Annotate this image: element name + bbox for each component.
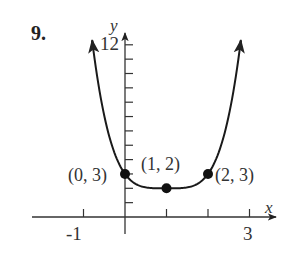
x-ticks: [84, 209, 250, 217]
point-marker: [162, 183, 172, 193]
y-tick-label-12: 12: [100, 33, 119, 54]
point-label-1-2: (1, 2): [141, 154, 180, 175]
point-label-0-3: (0, 3): [68, 165, 107, 186]
point-label-2-3: (2, 3): [215, 165, 254, 186]
curve-arrow-right: [240, 40, 241, 45]
problem-number: 9.: [31, 22, 46, 44]
x-tick-label-neg1: -1: [66, 223, 82, 244]
graph-figure: 9. x y -1 3 12 (0, 3) (1, 2) (2, 3): [0, 0, 287, 253]
x-tick-label-3: 3: [243, 223, 253, 244]
point-marker: [203, 169, 213, 179]
curve-arrow-left: [92, 40, 93, 45]
point-marker: [120, 169, 130, 179]
x-axis-label: x: [264, 198, 273, 217]
